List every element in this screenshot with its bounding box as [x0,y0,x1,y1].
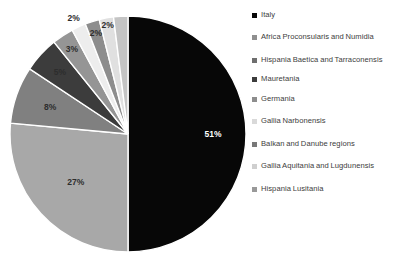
pie-chart-figure: 51%27%8%5%3%2%2%2%2% ItalyAfrica Procons… [0,0,406,268]
pie-slice-data-label: 2% [90,28,103,38]
legend-color-swatch-icon [252,142,257,147]
legend-item[interactable]: Gallia Aquitania and Lugdunensis [252,161,404,170]
legend-item-label: Africa Proconsularis and Numidia [261,32,374,41]
legend-item[interactable]: Balkan and Danube regions [252,139,404,148]
pie-svg: 51%27%8%5%3%2%2%2%2% [8,8,248,260]
legend-item[interactable]: Gallia Narbonensis [252,116,404,125]
legend-color-swatch-icon [252,77,257,82]
pie-slice-data-label: 51% [204,129,221,139]
legend-item-label: Gallia Aquitania and Lugdunensis [261,161,374,170]
legend-item-label: Mauretania [261,74,300,83]
legend-color-swatch-icon [252,119,257,124]
legend-item-label: Balkan and Danube regions [261,139,355,148]
pie-slice-data-label: 5% [54,67,67,77]
legend-item[interactable]: Italy [252,10,404,19]
pie-slice[interactable] [10,123,128,252]
pie-slice-data-label: 8% [44,102,57,112]
legend-color-swatch-icon [252,35,257,40]
legend-item-label: Gallia Narbonensis [261,116,326,125]
legend-item-label: Hispania Baetica and Tarraconensis [261,55,383,64]
legend-color-swatch-icon [252,97,257,102]
legend-item-label: Hispania Lusitania [261,184,324,193]
legend-item[interactable]: Mauretania [252,74,404,83]
legend-color-swatch-icon [252,187,257,192]
pie-slice-data-label: 3% [66,44,79,54]
pie-slice[interactable] [128,16,246,252]
legend-item-label: Italy [261,10,275,19]
legend-color-swatch-icon [252,58,257,63]
chart-legend: ItalyAfrica Proconsularis and NumidiaHis… [252,10,404,260]
legend-item[interactable]: Hispania Baetica and Tarraconensis [252,55,404,64]
legend-item[interactable]: Hispania Lusitania [252,184,404,193]
legend-item[interactable]: Africa Proconsularis and Numidia [252,32,404,41]
legend-item[interactable]: Germania [252,94,404,103]
legend-item-label: Germania [261,94,295,103]
pie-plot-area: 51%27%8%5%3%2%2%2%2% [8,8,248,260]
legend-color-swatch-icon [252,164,257,169]
pie-slice-data-label: 2% [68,13,81,23]
pie-slice-data-label: 27% [67,177,84,187]
legend-color-swatch-icon [252,13,257,18]
pie-slice-data-label: 2% [101,20,114,30]
